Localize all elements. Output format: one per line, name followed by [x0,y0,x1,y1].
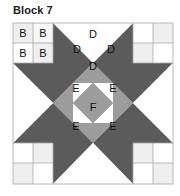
label-d-left: D [73,43,81,55]
label-e-top-left: E [72,82,79,94]
label-e-bottom-left: E [72,120,79,132]
label-b: B [39,27,46,39]
label-b: B [19,47,26,59]
label-d-top: D [89,28,97,40]
label-e-top-right: E [109,82,116,94]
label-d-right: D [107,43,115,55]
label-b: B [19,27,26,39]
quilt-block-diagram: B B B B D D D D E E E E F [0,0,180,196]
label-e-bottom-right: E [109,120,116,132]
label-d-bottom: D [89,60,97,72]
label-b: B [39,47,46,59]
label-f: F [90,101,97,113]
